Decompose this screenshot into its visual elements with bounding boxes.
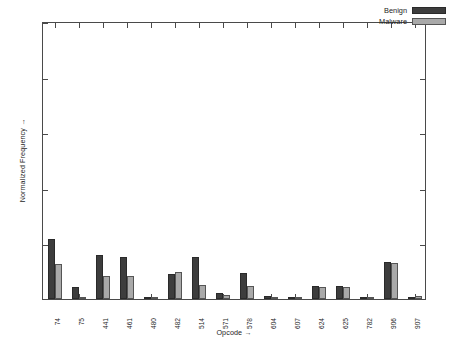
bar-malware-482 xyxy=(175,272,182,299)
x-axis-tick-label: 74 xyxy=(54,318,62,345)
bar-malware-74 xyxy=(55,264,62,299)
x-axis-tick-label: 75 xyxy=(78,318,86,345)
bar-malware-75 xyxy=(79,297,86,299)
legend-label-benign: Benign xyxy=(384,6,407,15)
bar-malware-578 xyxy=(247,286,254,299)
bar-benign-441 xyxy=(96,255,103,299)
x-axis-tick-mirror xyxy=(127,23,128,28)
bar-benign-75 xyxy=(72,287,79,300)
bar-benign-571 xyxy=(216,293,223,299)
bar-benign-514 xyxy=(192,257,199,299)
x-axis-tick-mirror xyxy=(343,23,344,28)
bar-benign-624 xyxy=(312,286,319,299)
bar-malware-906 xyxy=(391,263,398,299)
legend-item-malware: Malware xyxy=(379,17,446,26)
chart-legend: Benign Malware xyxy=(379,6,446,26)
x-axis-tick-mirror xyxy=(223,23,224,28)
bar-malware-782 xyxy=(367,297,374,299)
x-axis-tick-label: 482 xyxy=(174,318,182,345)
x-axis-tick-mirror xyxy=(295,23,296,28)
bar-malware-907 xyxy=(415,296,422,299)
bar-malware-514 xyxy=(199,285,206,299)
x-axis-tick-mirror xyxy=(151,23,152,28)
x-axis-tick-mirror xyxy=(367,23,368,28)
y-axis-tick: 0.4 xyxy=(43,190,48,191)
y-axis-title: Normalized Frequency → xyxy=(16,38,30,283)
bar-malware-607 xyxy=(295,297,302,299)
x-axis-tick-mirror xyxy=(175,23,176,28)
bar-chart: Normalized Frequency → 00.20.40.60.81 Op… xyxy=(0,0,452,345)
x-axis-tick-mirror xyxy=(271,23,272,28)
x-axis-tick-mirror xyxy=(55,23,56,28)
legend-swatch-benign xyxy=(412,7,446,14)
x-axis-tick-label: 480 xyxy=(150,318,158,345)
bar-benign-906 xyxy=(384,262,391,299)
bar-benign-578 xyxy=(240,273,247,299)
y-axis-tick-mirror xyxy=(420,134,425,135)
bar-benign-604 xyxy=(264,296,271,299)
bar-malware-441 xyxy=(103,276,110,299)
x-axis-tick-label: 607 xyxy=(294,318,302,345)
bar-benign-907 xyxy=(408,297,415,299)
y-axis-tick: 0.8 xyxy=(43,79,48,80)
x-axis-tick-label: 907 xyxy=(414,318,422,345)
x-axis-tick-mirror xyxy=(247,23,248,28)
plot-inner: 00.20.40.60.81 xyxy=(43,23,425,299)
x-axis-tick-label: 441 xyxy=(102,318,110,345)
bar-benign-482 xyxy=(168,274,175,299)
x-axis-tick-mirror xyxy=(79,23,80,28)
x-axis-tick-label: 782 xyxy=(366,318,374,345)
x-axis-tick-label: 604 xyxy=(270,318,278,345)
legend-label-malware: Malware xyxy=(379,17,407,26)
x-axis-tick-label: 906 xyxy=(390,318,398,345)
bar-malware-604 xyxy=(271,297,278,299)
y-axis-tick: 0.6 xyxy=(43,134,48,135)
y-axis-tick-mirror xyxy=(420,190,425,191)
bar-benign-74 xyxy=(48,239,55,299)
legend-item-benign: Benign xyxy=(384,6,446,15)
x-axis-tick-label: 624 xyxy=(318,318,326,345)
x-axis-tick-mirror xyxy=(199,23,200,28)
bar-benign-480 xyxy=(144,297,151,299)
x-axis-tick-label: 625 xyxy=(342,318,350,345)
bar-benign-461 xyxy=(120,257,127,299)
y-axis-tick: 1 xyxy=(43,23,48,24)
y-axis-tick-mirror xyxy=(420,245,425,246)
bar-malware-480 xyxy=(151,297,158,299)
x-axis-tick-label: 514 xyxy=(198,318,206,345)
bar-benign-782 xyxy=(360,297,367,299)
legend-swatch-malware xyxy=(412,18,446,25)
y-axis-tick-mirror xyxy=(420,79,425,80)
bar-malware-625 xyxy=(343,287,350,299)
bar-malware-624 xyxy=(319,287,326,299)
x-axis-tick-label: 461 xyxy=(126,318,134,345)
x-axis-tick-mirror xyxy=(319,23,320,28)
x-axis-tick-mirror xyxy=(103,23,104,28)
bar-malware-571 xyxy=(223,295,230,299)
x-axis-tick-label: 578 xyxy=(246,318,254,345)
x-axis-tick-label: 571 xyxy=(222,318,230,345)
bar-benign-625 xyxy=(336,286,343,299)
plot-area: 00.20.40.60.81 xyxy=(42,22,426,300)
bar-malware-461 xyxy=(127,276,134,299)
bar-benign-607 xyxy=(288,297,295,299)
